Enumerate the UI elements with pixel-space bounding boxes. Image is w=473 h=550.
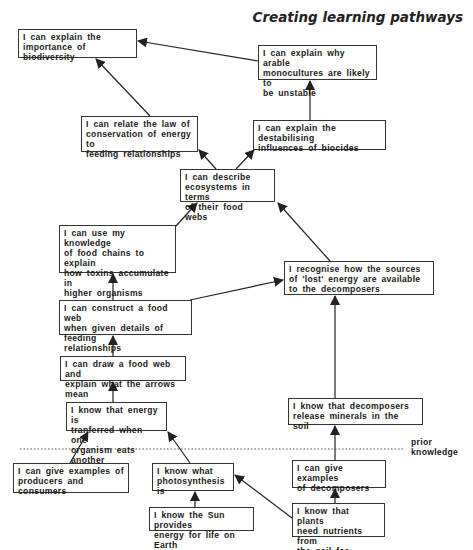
arrow-photosynthesis-to-energy	[168, 432, 190, 463]
outcome-box-construct-web: I can construct a food web when given de…	[59, 300, 192, 335]
arrow-construct-to-lost-energy	[190, 280, 283, 300]
prior-knowledge-label: prior knowledge	[411, 437, 458, 457]
arrow-ecosystems-to-biocides	[236, 150, 254, 169]
outcome-box-decomposers-minerals: I know that decomposers release minerals…	[288, 398, 423, 425]
outcome-box-photosynthesis: I know what photosynthesis is	[152, 463, 234, 491]
outcome-box-lost-energy: I recognise how the sources of 'lost' en…	[284, 261, 434, 295]
outcome-box-conservation: I can relate the law of conservation of …	[81, 116, 198, 152]
outcome-box-ecosystems: I can describe ecosystems in terms of th…	[180, 169, 275, 202]
arrow-conservation-to-biodiversity	[96, 59, 150, 116]
arrow-monocultures-to-biodiversity	[138, 41, 258, 61]
outcome-box-toxins: I can use my knowledge of food chains to…	[59, 225, 176, 273]
outcome-box-biocides: I can explain the destabilising influenc…	[253, 120, 386, 150]
arrow-lost-energy-to-ecosystems	[278, 203, 330, 261]
arrow-ecosystems-to-conservation	[199, 150, 216, 169]
outcome-box-sun-energy: I know the Sun provides energy for life …	[149, 507, 254, 531]
outcome-box-monocultures: I can explain why arable monocultures ar…	[258, 45, 377, 80]
outcome-box-energy-transfer: I know that energy is tranferred when on…	[66, 402, 167, 431]
outcome-box-examples-decomposers: I can give examples of decomposers	[292, 460, 386, 488]
outcome-box-producers-consumers: I can give examples of producers and con…	[13, 463, 129, 493]
outcome-box-biodiversity: I can explain the importance of biodiver…	[18, 29, 137, 58]
outcome-box-plant-nutrients: I know that plants need nutrients from t…	[292, 503, 385, 537]
outcome-box-draw-web: I can draw a food web and explain what t…	[60, 356, 186, 381]
